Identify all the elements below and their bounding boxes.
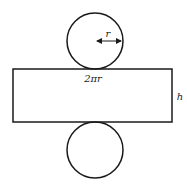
bottom-circle	[67, 122, 123, 178]
radius-label: r	[106, 28, 112, 39]
height-label: h	[177, 91, 183, 102]
circumference-label: 2πr	[83, 73, 103, 84]
cylinder-net-diagram: r 2πr h	[0, 0, 187, 186]
